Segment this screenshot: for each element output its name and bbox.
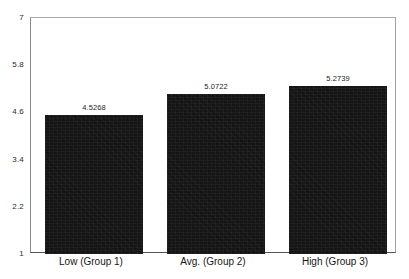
bar-group: 5.0722	[167, 18, 265, 254]
bar-group: 4.5268	[45, 18, 143, 254]
x-axis-tick-label: Avg. (Group 2)	[152, 256, 274, 267]
bar-value-label: 5.0722	[167, 82, 265, 91]
bar-group: 5.2739	[289, 18, 387, 254]
y-axis-tick-label: 2.2	[12, 201, 24, 210]
bar-chart-figure: 12.23.44.65.87 4.52685.07225.2739 Low (G…	[0, 0, 409, 279]
bar	[289, 86, 387, 254]
x-axis-tick-label: Low (Group 1)	[30, 256, 152, 267]
bar	[45, 115, 143, 254]
bar-value-label: 4.5268	[45, 103, 143, 112]
y-axis-tick-label: 4.6	[12, 107, 24, 116]
y-axis-tick-label: 5.8	[12, 60, 24, 69]
y-axis-tick-label: 1	[19, 249, 24, 258]
y-axis-tick-label: 7	[19, 13, 24, 22]
plot-area: 4.52685.07225.2739	[30, 17, 396, 253]
x-axis: Low (Group 1)Avg. (Group 2)High (Group 3…	[30, 256, 396, 276]
y-axis-tick-label: 3.4	[12, 154, 24, 163]
bars-layer: 4.52685.07225.2739	[31, 18, 397, 254]
x-axis-tick-label: High (Group 3)	[274, 256, 396, 267]
bar-value-label: 5.2739	[289, 74, 387, 83]
y-axis: 12.23.44.65.87	[0, 0, 28, 279]
bar	[167, 94, 265, 254]
